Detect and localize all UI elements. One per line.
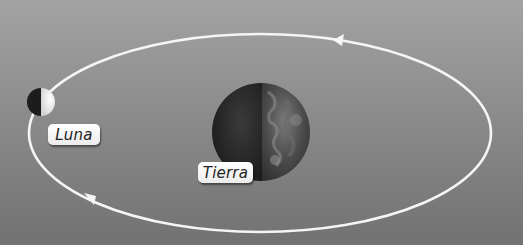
earth-label-text: Tierra — [203, 164, 248, 182]
orbit-diagram: Luna Tierra — [0, 0, 523, 245]
moon-label-text: Luna — [55, 126, 92, 144]
earth-label: Tierra — [198, 162, 253, 183]
diagram-canvas — [0, 0, 523, 245]
orbit-arrow-icon — [333, 34, 344, 46]
moon-label: Luna — [48, 124, 100, 145]
